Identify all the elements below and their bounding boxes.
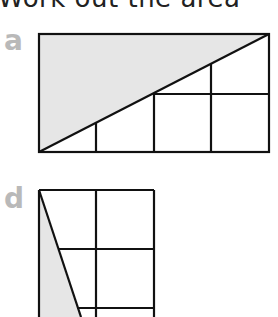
figure-d [39, 190, 154, 317]
figure-a [39, 34, 269, 152]
figures-canvas [0, 0, 278, 317]
